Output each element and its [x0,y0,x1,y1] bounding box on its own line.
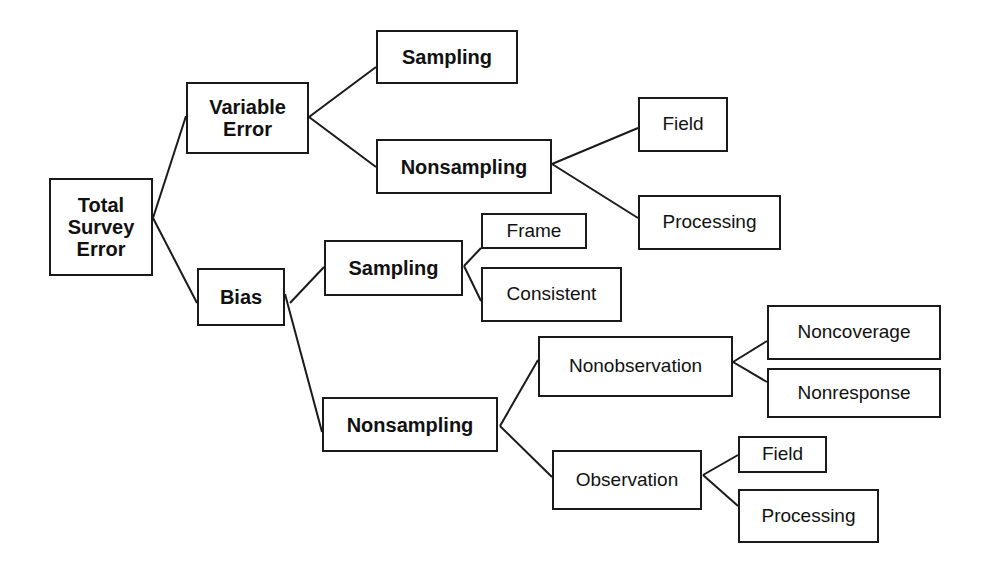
node-label: TotalSurveyError [68,194,135,260]
node-label-line: Sampling [348,257,438,279]
node-label: Sampling [402,46,492,68]
edge-nonobservation-to-noncoverage [733,341,767,362]
edge-var_nonsampling-to-var_processing [552,164,638,218]
node-label-line: Bias [220,286,262,308]
edge-bias_sampling-to-frame [464,248,481,266]
node-label-line: Field [662,114,703,135]
node-label-line: Nonresponse [797,383,910,404]
node-var-field: Field [638,97,728,152]
node-obs-field: Field [738,436,827,473]
node-observation: Observation [552,450,702,510]
node-label: Nonsampling [347,414,474,436]
node-label-line: Processing [663,212,757,233]
node-label-line: Variable [209,96,286,118]
node-label-line: Sampling [402,46,492,68]
node-nonresponse: Nonresponse [767,368,941,418]
node-label-line: Nonsampling [401,156,528,178]
node-label-line: Frame [507,221,562,242]
node-nonobservation: Nonobservation [538,336,733,397]
node-label: Nonresponse [797,383,910,404]
node-label: VariableError [209,96,286,140]
node-label-line: Total [68,194,135,216]
edge-total-to-bias [153,218,197,303]
edge-bias_nonsampling-to-nonobservation [500,360,538,426]
edge-bias_sampling-to-consistent [464,266,481,301]
node-label-line: Survey [68,216,135,238]
node-label: Bias [220,286,262,308]
edge-nonobservation-to-nonresponse [733,362,767,382]
node-label: Processing [762,506,856,527]
edge-observation-to-obs_field [703,455,738,475]
node-label: Nonsampling [401,156,528,178]
node-label: Frame [507,221,562,242]
node-label: Sampling [348,257,438,279]
node-label-line: Error [68,238,135,260]
node-label-line: Observation [576,470,678,491]
node-var-processing: Processing [638,195,781,250]
node-obs-processing: Processing [738,489,879,543]
node-var-sampling: Sampling [376,30,518,84]
node-label: Noncoverage [797,322,910,343]
node-variable: VariableError [186,82,309,154]
node-label-line: Nonobservation [569,356,702,377]
edge-bias-to-bias_nonsampling [285,294,322,432]
node-label-line: Processing [762,506,856,527]
node-label-line: Consistent [507,284,597,305]
node-noncoverage: Noncoverage [767,305,941,360]
node-label: Field [762,444,803,465]
node-var-nonsampling: Nonsampling [376,139,552,194]
node-label-line: Nonsampling [347,414,474,436]
node-label-line: Noncoverage [797,322,910,343]
edge-variable-to-var_nonsampling [309,117,376,167]
edge-total-to-variable [153,116,186,218]
edge-bias-to-bias_sampling [290,267,324,303]
edge-variable-to-var_sampling [309,67,376,117]
edge-observation-to-obs_processing [703,475,738,506]
node-frame: Frame [481,213,587,249]
node-label: Nonobservation [569,356,702,377]
node-total: TotalSurveyError [49,178,153,276]
node-bias: Bias [197,268,285,326]
node-bias-sampling: Sampling [324,240,463,296]
node-bias-nonsampling: Nonsampling [322,397,498,452]
total-survey-error-diagram: TotalSurveyErrorVariableErrorBiasSamplin… [0,0,991,576]
node-label: Field [662,114,703,135]
node-label-line: Error [209,118,286,140]
node-label: Processing [663,212,757,233]
edge-var_nonsampling-to-var_field [552,128,638,164]
edge-bias_nonsampling-to-observation [500,426,552,477]
node-label: Consistent [507,284,597,305]
node-consistent: Consistent [481,267,622,322]
node-label-line: Field [762,444,803,465]
node-label: Observation [576,470,678,491]
